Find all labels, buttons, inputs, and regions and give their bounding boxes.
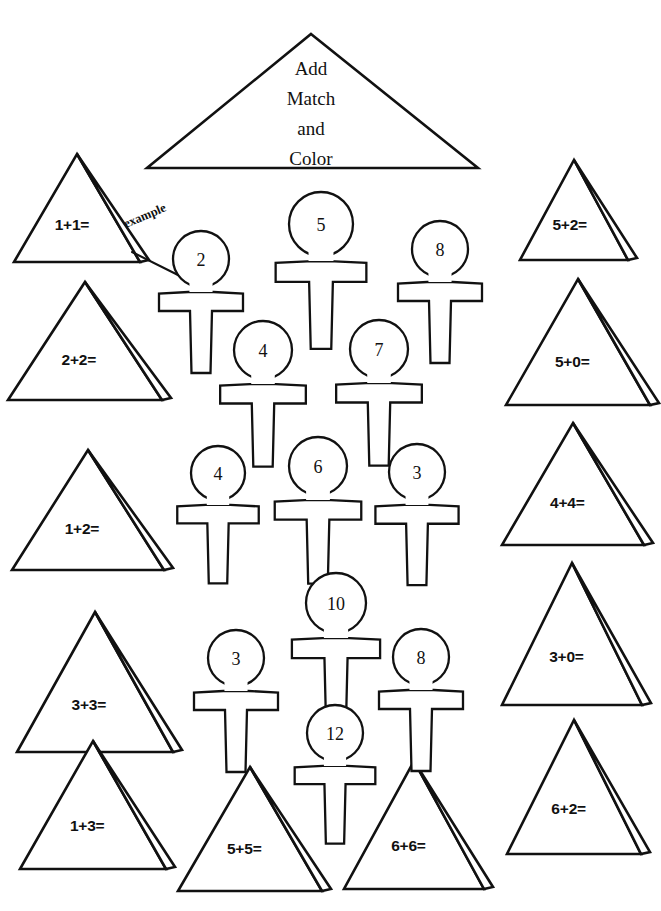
triangle-outline	[507, 720, 641, 854]
title-line-4: Color	[289, 148, 333, 169]
example-label: example	[122, 200, 169, 230]
equation-triangle[interactable]: 6+2=	[507, 720, 650, 854]
ankh-number-label: 4	[214, 464, 223, 484]
equation-triangle[interactable]: 5+5=	[178, 767, 331, 891]
triangle-equation-label: 6+6=	[391, 837, 426, 854]
answer-ankh[interactable]: 10	[292, 573, 380, 723]
ankh-cross-body	[194, 691, 278, 772]
triangle-outline	[502, 423, 644, 545]
ankh-joint-mask	[306, 488, 330, 500]
answer-ankh[interactable]: 6	[275, 437, 362, 584]
ankh-joint-mask	[324, 626, 348, 638]
triangle-equation-label: 2+2=	[62, 351, 97, 368]
triangle-outline	[502, 563, 642, 705]
answer-ankh[interactable]: 8	[379, 629, 463, 771]
triangle-equation-label: 3+0=	[549, 648, 584, 665]
answer-ankh[interactable]: 5	[276, 192, 367, 349]
equation-triangle[interactable]: 1+2=	[12, 450, 173, 570]
ankh-number-label: 8	[417, 648, 426, 668]
example-connector-line	[132, 252, 178, 275]
triangle-equation-label: 5+2=	[552, 216, 587, 233]
equation-triangle[interactable]: 5+2=	[520, 160, 637, 260]
title-line-1: Add	[295, 58, 328, 79]
triangle-equation-label: 1+1=	[55, 216, 90, 233]
worksheet-canvas: AddMatchandColor 1+1=2+2=1+2=3+3=1+3=5+2…	[0, 0, 661, 911]
equation-triangle[interactable]: 5+0=	[506, 279, 659, 405]
triangle-equation-label: 5+0=	[555, 353, 590, 370]
ankh-joint-mask	[324, 754, 346, 766]
ankh-cross-body	[379, 690, 463, 771]
answer-ankh[interactable]: 8	[398, 221, 482, 363]
answer-ankh[interactable]: 7	[336, 320, 422, 466]
triangle-equation-label: 3+3=	[71, 696, 106, 713]
answer-ankh[interactable]: 2	[159, 231, 243, 373]
ankh-joint-mask	[428, 270, 451, 282]
equation-triangle[interactable]: 3+3=	[17, 612, 182, 752]
triangle-outline	[178, 767, 322, 891]
ankh-cross-body	[177, 505, 258, 584]
worksheet-page: AddMatchandColor 1+1=2+2=1+2=3+3=1+3=5+2…	[0, 0, 661, 911]
triangle-outline	[20, 741, 166, 869]
triangle-outline	[12, 450, 164, 570]
answer-ankh[interactable]: 12	[295, 705, 376, 844]
title-line-3: and	[297, 118, 325, 139]
ankh-joint-mask	[367, 371, 391, 383]
ankh-joint-mask	[189, 280, 212, 292]
equation-triangle[interactable]: 2+2=	[8, 282, 171, 400]
triangle-outline	[17, 612, 173, 752]
ankh-joint-mask	[224, 679, 247, 691]
ankh-number-label: 5	[317, 215, 326, 235]
triangle-equation-label: 6+2=	[551, 800, 586, 817]
ankh-joint-mask	[406, 493, 429, 505]
ankh-cross-body	[398, 282, 482, 363]
triangle-outline	[8, 282, 162, 400]
ankh-cross-body	[375, 505, 458, 585]
title-line-2: Match	[287, 88, 336, 109]
equation-triangle[interactable]: 3+0=	[502, 563, 651, 705]
equation-triangle[interactable]: 4+4=	[502, 423, 653, 545]
ankh-joint-mask	[309, 249, 334, 261]
answer-ankhs: 25847463310812	[159, 192, 482, 844]
answer-ankh[interactable]: 4	[177, 446, 258, 583]
ankh-number-label: 8	[436, 240, 445, 260]
ankh-number-label: 3	[413, 463, 422, 483]
triangle-equation-label: 1+3=	[70, 817, 105, 834]
ankh-number-label: 4	[259, 341, 268, 361]
triangle-equation-label: 1+2=	[65, 520, 100, 537]
ankh-number-label: 2	[197, 250, 206, 270]
triangle-equation-label: 5+5=	[227, 840, 262, 857]
ankh-cross-body	[275, 500, 362, 583]
ankh-number-label: 3	[232, 649, 241, 669]
ankh-number-label: 6	[314, 457, 323, 477]
ankh-joint-mask	[251, 372, 275, 384]
triangle-equation-label: 4+4=	[550, 494, 585, 511]
triangle-outline	[14, 154, 140, 262]
title-triangle: AddMatchandColor	[147, 34, 478, 169]
ankh-cross-body	[159, 292, 243, 373]
triangle-outline	[506, 279, 650, 405]
triangle-outline	[520, 160, 628, 260]
equation-triangle[interactable]: 1+3=	[20, 741, 175, 869]
ankh-cross-body	[295, 766, 376, 844]
ankh-number-label: 10	[327, 594, 345, 614]
ankh-number-label: 7	[375, 340, 384, 360]
answer-ankh[interactable]: 4	[220, 321, 306, 467]
answer-ankh[interactable]: 3	[194, 630, 278, 772]
ankh-joint-mask	[207, 493, 229, 505]
ankh-joint-mask	[409, 678, 432, 690]
ankh-number-label: 12	[326, 724, 344, 744]
equation-triangle[interactable]: 1+1=	[14, 154, 149, 262]
